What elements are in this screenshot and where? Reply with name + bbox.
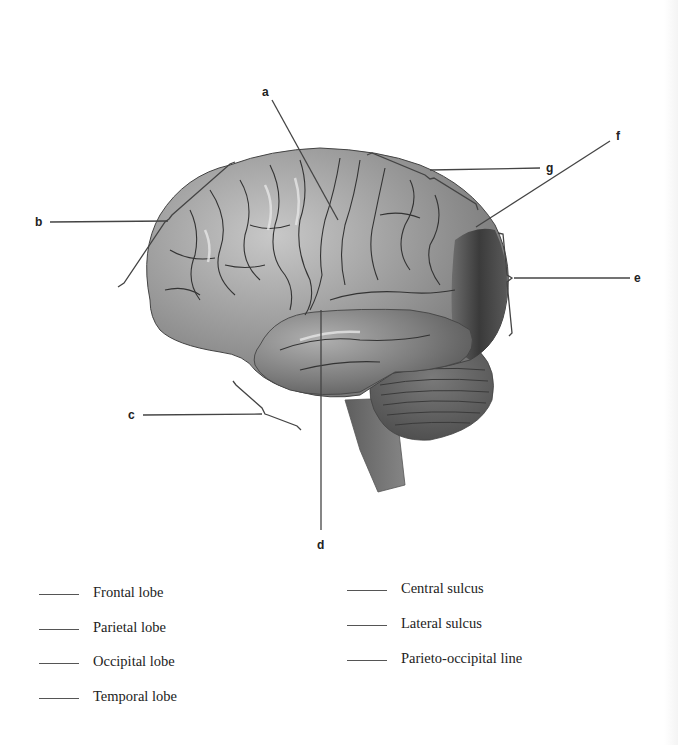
label-g: g <box>546 162 553 174</box>
answer-term: Parietal lobe <box>93 619 166 635</box>
label-f: f <box>616 130 620 142</box>
answer-blank[interactable] <box>39 697 79 699</box>
answer-row-lateral-sulcus: Lateral sulcus <box>347 615 482 631</box>
label-e: e <box>634 272 641 284</box>
answer-term: Parieto-occipital line <box>401 650 522 666</box>
label-b: b <box>35 216 42 228</box>
answer-term: Occipital lobe <box>93 653 175 669</box>
answer-blank[interactable] <box>347 624 387 626</box>
answer-blank[interactable] <box>347 659 387 661</box>
answer-term: Frontal lobe <box>93 584 163 600</box>
answer-row-parietal-lobe: Parietal lobe <box>39 619 166 635</box>
answer-blank[interactable] <box>347 589 387 591</box>
answer-blank[interactable] <box>39 593 79 595</box>
brain-diagram <box>0 0 678 560</box>
label-d: d <box>317 539 324 551</box>
answer-term: Lateral sulcus <box>401 615 482 631</box>
answer-term: Central sulcus <box>401 580 484 596</box>
label-a: a <box>262 86 269 98</box>
answer-blank[interactable] <box>39 662 79 664</box>
label-c: c <box>128 409 135 421</box>
answer-blank[interactable] <box>39 628 79 630</box>
answer-row-parieto-occipital-line: Parieto-occipital line <box>347 650 522 666</box>
answer-row-frontal-lobe: Frontal lobe <box>39 584 163 600</box>
answer-term: Temporal lobe <box>93 688 177 704</box>
answer-row-temporal-lobe: Temporal lobe <box>39 688 177 704</box>
answer-row-central-sulcus: Central sulcus <box>347 580 484 596</box>
answer-row-occipital-lobe: Occipital lobe <box>39 653 175 669</box>
worksheet-page: a b c d e f g Frontal lobe Parietal lobe… <box>0 0 678 745</box>
